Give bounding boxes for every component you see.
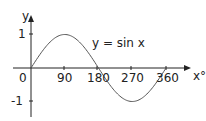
x-tick-label-180: 180	[87, 71, 110, 85]
x-tick-label-0: 0	[19, 71, 27, 85]
x-tick-label-360: 360	[156, 71, 179, 85]
y-tick-label-1: 1	[18, 27, 26, 41]
x-tick-label-270: 270	[121, 71, 144, 85]
y-tick-label-neg1: -1	[11, 94, 23, 108]
sine-chart: y x° 1 -1 0 90 180 270 360 y = sin x	[0, 0, 206, 121]
x-axis-arrow-icon	[184, 65, 191, 71]
curve-equation-label: y = sin x	[92, 36, 145, 50]
y-axis-label: y	[22, 9, 29, 23]
x-axis-label: x°	[193, 69, 206, 83]
x-tick-label-90: 90	[57, 71, 72, 85]
